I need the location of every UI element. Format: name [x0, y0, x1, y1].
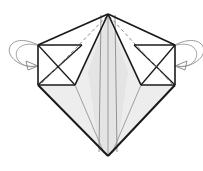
origami-figure — [0, 0, 203, 171]
origami-diagram-container — [0, 0, 203, 171]
